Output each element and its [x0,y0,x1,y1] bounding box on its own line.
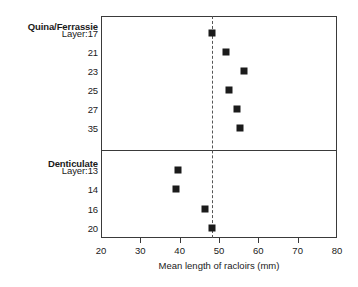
data-point-marker [237,125,244,132]
data-point-marker [208,225,215,232]
data-point-marker [234,106,241,113]
reference-line [212,16,213,238]
x-axis-tick [298,238,299,243]
x-axis-tick-label: 20 [96,245,107,256]
x-axis-tick-label: 40 [174,245,185,256]
y-axis-tick-label: 23 [88,66,98,77]
y-axis-tick-label: 20 [88,223,98,234]
x-axis-tick-label: 50 [214,245,225,256]
scatter-chart: Quina/Ferrassie Denticulate Layer:172123… [0,0,358,287]
x-axis-tick-label: 70 [292,245,303,256]
x-axis-tick-label: 60 [253,245,264,256]
data-point-marker [226,87,233,94]
data-point-marker [223,49,230,56]
y-axis-tick-label: 25 [88,85,98,96]
y-axis-tick-label: 21 [88,47,98,58]
data-point-marker [201,206,208,213]
x-axis-tick [219,238,220,243]
plot-frame [101,16,337,238]
x-axis-tick-label: 30 [135,245,146,256]
y-axis-tick-label: 27 [88,104,98,115]
x-axis-title: Mean length of racloirs (mm) [101,260,337,271]
y-axis-tick-label: Layer:17 [62,28,98,39]
data-point-marker [241,68,248,75]
data-point-marker [175,167,182,174]
y-axis-tick-label: 14 [88,184,98,195]
y-axis-tick-label: 16 [88,204,98,215]
x-axis-tick [180,238,181,243]
x-axis-tick [140,238,141,243]
x-axis-tick-label: 80 [332,245,343,256]
data-point-marker [173,186,180,193]
data-point-marker [208,30,215,37]
panel-divider [101,150,337,151]
y-axis-tick-label: 35 [88,123,98,134]
y-axis-tick-label: Layer:13 [62,165,98,176]
x-axis-tick [258,238,259,243]
